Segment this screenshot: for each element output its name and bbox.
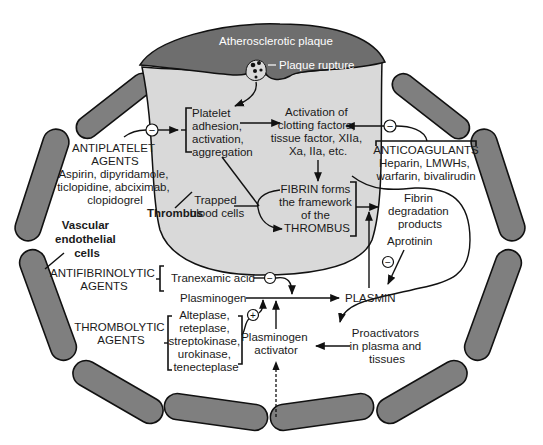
fibrin-degradation-label: Fibrin degradation products [388, 192, 452, 230]
thrombosis-diagram: Atherosclerotic plaque Plaque rupture Pl… [0, 0, 543, 445]
svg-text:−: − [387, 120, 393, 132]
thrombus-body [142, 62, 382, 275]
endothelial-cell [388, 69, 474, 143]
thrombolytic-drugs: Alteplase, reteplase, streptokinase, uro… [169, 309, 244, 373]
plasminogen-label: Plasminogen [180, 292, 246, 304]
endothelial-cell [461, 246, 525, 364]
antifibrinolytic-title: ANTIFIBRINOLYTIC AGENTS [50, 267, 158, 292]
endothelial-cell [16, 246, 80, 364]
antiplatelet-title: ANTIPLATELET AGENTS [72, 142, 158, 167]
endothelial-cell [68, 356, 168, 429]
svg-text:−: − [149, 124, 155, 136]
aprotinin-label: Aprotinin [387, 235, 432, 247]
anticoagulants-title: ANTICOAGULANTS [373, 144, 479, 156]
tranexamic-label: Tranexamic acid [171, 272, 255, 284]
plaque-label: Atherosclerotic plaque [219, 35, 333, 47]
plasminogen-activator-label: Plasminogen activator [241, 331, 311, 356]
svg-text:+: + [250, 310, 256, 321]
plasmin-label: PLASMIN [345, 292, 396, 304]
endothelial-cell [372, 356, 472, 429]
thrombus-label: Thrombus [147, 207, 203, 219]
thrombolytic-title: THROMBOLYTIC AGENTS [74, 321, 168, 346]
svg-text:−: − [267, 273, 273, 284]
endothelial-cell [269, 392, 376, 432]
svg-text:−: − [385, 257, 391, 268]
proactivators-label: Proactivators in plasma and tissues [350, 327, 425, 365]
endothelial-cell [163, 392, 270, 432]
anticoagulants-drugs: Heparin, LMWHs, warfarin, bivalirudin [375, 157, 475, 182]
vascular-endothelial-label: Vascular endothelial cells [55, 219, 119, 259]
plaque-rupture-label: Plaque rupture [279, 59, 354, 71]
